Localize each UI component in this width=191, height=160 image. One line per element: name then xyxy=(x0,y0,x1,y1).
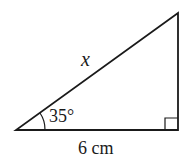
hypotenuse-label: x xyxy=(81,48,90,71)
angle-label: 35° xyxy=(49,106,74,127)
angle-arc xyxy=(40,113,45,130)
triangle-figure xyxy=(0,0,191,160)
triangle xyxy=(16,13,178,130)
base-label: 6 cm xyxy=(78,138,114,159)
right-angle-marker xyxy=(165,118,178,130)
